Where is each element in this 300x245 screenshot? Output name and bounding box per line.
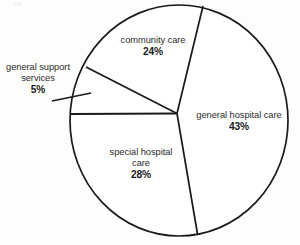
slice-label-community-care-percent: 24% <box>105 46 201 58</box>
slice-label-general-hospital-care-percent: 43% <box>183 121 295 133</box>
slice-label-general-support-services-percent: 5% <box>2 84 74 96</box>
slice-label-general-support-services: general support services 5% <box>2 62 74 96</box>
slice-label-general-support-services-name-line1: general support <box>2 62 74 73</box>
slice-label-special-hospital-care-percent: 28% <box>95 169 187 181</box>
slice-label-special-hospital-care: special hospital care 28% <box>95 147 187 181</box>
slice-label-community-care: community care 24% <box>105 35 201 59</box>
slice-label-special-hospital-care-name-line1: special hospital <box>95 147 187 158</box>
pie-chart: community care 24% general hospital care… <box>0 0 300 245</box>
slice-label-community-care-name: community care <box>105 35 201 46</box>
slice-label-general-hospital-care-name: general hospital care <box>183 110 295 121</box>
slice-label-general-hospital-care: general hospital care 43% <box>183 110 295 134</box>
slice-divider-support-special-hospital <box>71 114 178 115</box>
slice-label-special-hospital-care-name-line2: care <box>95 158 187 169</box>
slice-label-general-support-services-name-line2: services <box>2 73 74 84</box>
